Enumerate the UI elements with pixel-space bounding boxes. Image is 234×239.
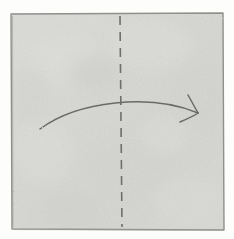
paper-edge-left-accent — [13, 16, 14, 227]
folding-instruction-diagram: Hand-drawn square sheet of paper with a … — [0, 0, 234, 239]
diagram-canvas — [0, 0, 234, 239]
paper-grain-texture — [11, 13, 225, 231]
paper-sheet — [10, 13, 225, 231]
